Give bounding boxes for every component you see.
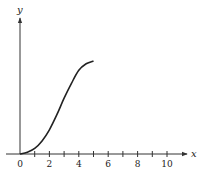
x-tick-label: 10 [161,159,173,169]
x-tick-label: 6 [105,159,111,169]
y-axis-label: y [16,4,23,15]
x-tick-label: 2 [47,159,53,169]
x-tick-label: 8 [135,159,141,169]
x-tick-label: 0 [17,159,23,169]
x-axis-tick-labels: 0246810 [17,159,173,169]
x-tick-label: 4 [76,159,82,169]
data-curve [20,61,94,154]
chart: 0246810 x y [0,0,210,177]
x-axis-label: x [191,148,197,159]
